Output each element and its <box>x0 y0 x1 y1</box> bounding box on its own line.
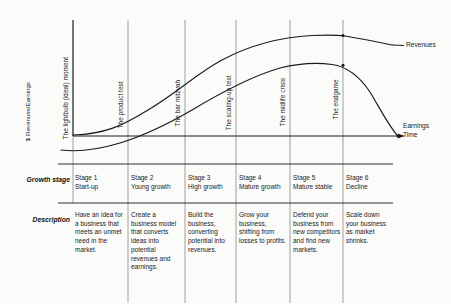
growth-stage-cell-5: Stage 5 Mature stable <box>293 174 343 191</box>
description-cell-5: Defend your business from new competitor… <box>293 211 342 255</box>
stage-name-6: Decline <box>346 183 394 192</box>
revenues-peak-marker <box>342 34 345 37</box>
gridlines <box>73 20 343 303</box>
revenues-series-label: Revenues <box>406 41 436 49</box>
stage-name-4: Mature growth <box>239 183 287 192</box>
growth-stage-cell-2: Stage 2 Young growth <box>131 174 183 191</box>
earnings-peak-marker <box>342 64 345 67</box>
milestone-label-midlife-crisis: The midlife crisis <box>280 78 286 126</box>
stage-name-1: Start-up <box>75 183 125 192</box>
growth-stage-cell-3: Stage 3 High growth <box>188 174 235 191</box>
stage-name-5: Mature stable <box>293 183 343 192</box>
milestone-label-scaling-up-test: The scaling-up test <box>226 75 232 130</box>
description-cell-4: Grow your business, shifting from losses… <box>239 211 287 246</box>
milestone-label-product-test: The product test <box>118 81 124 128</box>
description-row-header: Description <box>6 216 70 224</box>
description-cell-3: Build the business, converting potential… <box>188 211 234 255</box>
earnings-endpoint-marker <box>396 134 399 137</box>
growth-stage-cell-4: Stage 4 Mature growth <box>239 174 287 191</box>
stage-name-3: High growth <box>188 183 235 192</box>
stage-number-6: Stage 6 <box>346 174 394 183</box>
stage-number-5: Stage 5 <box>293 174 343 183</box>
stage-number-1: Stage 1 <box>75 174 125 183</box>
time-axis-label: Time <box>403 131 417 139</box>
growth-stage-row-header: Growth stage <box>6 176 70 184</box>
milestone-label-lightbulb-moment: The lightbulb (ideal) moment <box>63 57 69 139</box>
growth-stage-cell-6: Stage 6 Decline <box>346 174 394 191</box>
stage-number-3: Stage 3 <box>188 174 235 183</box>
diagram-page: $ Revenues/Earnings The lightbulb (ideal… <box>0 0 451 304</box>
business-lifecycle-chart <box>0 0 451 304</box>
stage-number-4: Stage 4 <box>239 174 287 183</box>
stage-name-2: Young growth <box>131 183 183 192</box>
stage-number-2: Stage 2 <box>131 174 183 183</box>
milestone-label-bar-mitzvah: The bar mitzvah <box>175 80 181 127</box>
description-cell-2: Create a business model that converts id… <box>131 211 182 272</box>
description-cell-6: Scale down your business as market shrin… <box>346 211 394 246</box>
y-axis-label: $ Revenues/Earnings <box>25 82 31 141</box>
milestone-label-endgame: The endgame <box>333 79 339 119</box>
growth-stage-cell-1: Stage 1 Start-up <box>75 174 125 191</box>
earnings-series-label: Earnings <box>403 122 429 130</box>
revenues-leader-line <box>392 45 404 46</box>
description-cell-1: Have an idea for a business that meets a… <box>75 211 125 255</box>
